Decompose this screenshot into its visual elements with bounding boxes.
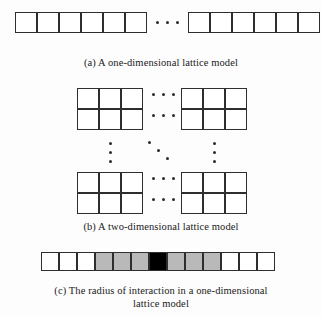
dot bbox=[152, 198, 155, 201]
lattice-cell bbox=[203, 109, 225, 130]
caption-a: (a) A one-dimensional lattice model bbox=[0, 56, 322, 69]
lattice-b-bottom-right-block bbox=[181, 172, 247, 214]
dot bbox=[176, 21, 179, 24]
lattice-cell bbox=[225, 193, 247, 214]
dot bbox=[172, 198, 175, 201]
ellipsis-diagonal-icon bbox=[148, 141, 174, 163]
dot bbox=[148, 141, 151, 144]
interaction-center-cell bbox=[149, 252, 167, 271]
lattice-cell bbox=[15, 12, 37, 33]
caption-b: (b) A two-dimensional lattice model bbox=[0, 220, 322, 233]
lattice-b-top-right-block bbox=[181, 88, 247, 130]
dot bbox=[152, 114, 155, 117]
ellipsis-horizontal-icon bbox=[152, 198, 175, 201]
ellipsis-horizontal-icon bbox=[152, 177, 175, 180]
lattice-cell bbox=[99, 88, 121, 109]
lattice-cell bbox=[37, 12, 59, 33]
lattice-cell bbox=[121, 88, 143, 109]
dot bbox=[109, 151, 112, 154]
interaction-neighbor-cell bbox=[203, 252, 221, 271]
dot bbox=[213, 160, 216, 163]
dot bbox=[109, 160, 112, 163]
lattice-b-top-left-block bbox=[77, 88, 143, 130]
interaction-radius-strip bbox=[41, 252, 275, 271]
lattice-cell bbox=[210, 12, 232, 33]
lattice-cell bbox=[181, 109, 203, 130]
lattice-cell bbox=[181, 193, 203, 214]
dot bbox=[213, 142, 216, 145]
dot bbox=[162, 114, 165, 117]
lattice-cell bbox=[188, 12, 210, 33]
interaction-neighbor-cell bbox=[113, 252, 131, 271]
lattice-cell bbox=[77, 88, 99, 109]
lattice-cell bbox=[121, 109, 143, 130]
interaction-neighbor-cell bbox=[185, 252, 203, 271]
lattice-a-right-segment bbox=[188, 12, 320, 33]
lattice-cell bbox=[41, 252, 59, 271]
lattice-a-left-segment bbox=[15, 12, 147, 33]
lattice-cell bbox=[203, 172, 225, 193]
lattice-cell bbox=[77, 109, 99, 130]
ellipsis-horizontal-icon bbox=[156, 21, 179, 24]
dot bbox=[156, 21, 159, 24]
ellipsis-horizontal-icon bbox=[152, 93, 175, 96]
lattice-cell bbox=[77, 172, 99, 193]
interaction-neighbor-cell bbox=[95, 252, 113, 271]
caption-c: (c) The radius of interaction in a one-d… bbox=[0, 284, 322, 310]
lattice-cell bbox=[103, 12, 125, 33]
lattice-cell bbox=[125, 12, 147, 33]
lattice-cell bbox=[232, 12, 254, 33]
lattice-cell bbox=[121, 172, 143, 193]
dot bbox=[166, 157, 169, 160]
lattice-cell bbox=[203, 88, 225, 109]
lattice-cell bbox=[77, 193, 99, 214]
lattice-cell bbox=[221, 252, 239, 271]
lattice-cell bbox=[276, 12, 298, 33]
lattice-cell bbox=[203, 193, 225, 214]
dot bbox=[162, 198, 165, 201]
caption-c-line1: (c) The radius of interaction in a one-d… bbox=[0, 284, 322, 297]
dot bbox=[157, 149, 160, 152]
lattice-cell bbox=[81, 12, 103, 33]
lattice-cell bbox=[254, 12, 276, 33]
lattice-cell bbox=[225, 172, 247, 193]
lattice-cell bbox=[181, 172, 203, 193]
ellipsis-vertical-icon bbox=[109, 142, 112, 163]
dot bbox=[172, 177, 175, 180]
lattice-cell bbox=[121, 193, 143, 214]
lattice-cell bbox=[181, 88, 203, 109]
dot bbox=[109, 142, 112, 145]
dot bbox=[162, 93, 165, 96]
lattice-cell bbox=[99, 109, 121, 130]
dot bbox=[172, 114, 175, 117]
lattice-cell bbox=[77, 252, 95, 271]
dot bbox=[213, 151, 216, 154]
dot bbox=[172, 93, 175, 96]
lattice-cell bbox=[225, 109, 247, 130]
dot bbox=[152, 93, 155, 96]
dot bbox=[166, 21, 169, 24]
ellipsis-horizontal-icon bbox=[152, 114, 175, 117]
lattice-cell bbox=[99, 172, 121, 193]
ellipsis-vertical-icon bbox=[213, 142, 216, 163]
lattice-cell bbox=[59, 252, 77, 271]
lattice-cell bbox=[99, 193, 121, 214]
dot bbox=[152, 177, 155, 180]
interaction-neighbor-cell bbox=[167, 252, 185, 271]
lattice-cell bbox=[225, 88, 247, 109]
dot bbox=[162, 177, 165, 180]
lattice-cell bbox=[257, 252, 275, 271]
lattice-cell bbox=[239, 252, 257, 271]
lattice-models-figure: (a) A one-dimensional lattice model bbox=[0, 0, 322, 316]
interaction-neighbor-cell bbox=[131, 252, 149, 271]
caption-c-line2: lattice model bbox=[0, 297, 322, 310]
lattice-cell bbox=[59, 12, 81, 33]
lattice-cell bbox=[298, 12, 320, 33]
lattice-b-bottom-left-block bbox=[77, 172, 143, 214]
